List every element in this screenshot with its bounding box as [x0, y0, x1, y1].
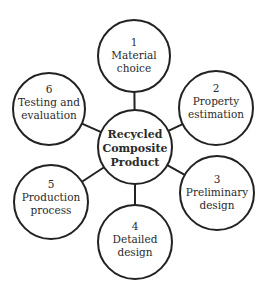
- connector-line: [168, 124, 182, 131]
- node-label-line-2: choice: [117, 62, 151, 74]
- connector-line: [82, 167, 104, 181]
- center-node: Recycled Composite Product: [98, 110, 172, 184]
- center-label-line-1: Recycled: [108, 128, 163, 141]
- node-label-line-2: design: [199, 199, 234, 211]
- connector-line: [82, 124, 101, 132]
- connector-line: [167, 165, 184, 175]
- node-1-material-choice: 1 Material choice: [98, 20, 170, 92]
- node-number: 5: [48, 178, 55, 190]
- node-label-line-2: process: [31, 204, 72, 216]
- center-label-line-3: Product: [111, 156, 161, 169]
- node-label-line-1: Property: [193, 95, 240, 107]
- node-label-line-1: Testing and: [18, 96, 80, 108]
- node-5-production-process: 5 Production process: [14, 165, 88, 239]
- node-3-preliminary-design: 3 Preliminary design: [180, 156, 254, 230]
- node-label-line-2: evaluation: [21, 109, 77, 121]
- node-number: 1: [131, 36, 138, 48]
- node-label-line-1: Preliminary: [186, 186, 248, 198]
- hub-and-spoke-diagram: Recycled Composite Product 1 Material ch…: [0, 0, 266, 289]
- node-number: 3: [214, 173, 221, 185]
- node-label-line-1: Detailed: [113, 233, 158, 245]
- node-label-line-1: Production: [22, 191, 81, 203]
- node-label-line-1: Material: [111, 49, 157, 61]
- node-number: 6: [46, 83, 53, 95]
- node-label-line-2: design: [117, 246, 152, 258]
- node-number: 2: [213, 82, 220, 94]
- node-number: 4: [132, 220, 139, 232]
- node-2-property-estimation: 2 Property estimation: [179, 71, 253, 145]
- center-label-line-2: Composite: [102, 142, 167, 155]
- node-label-line-2: estimation: [188, 108, 244, 120]
- node-6-testing-and-evaluation: 6 Testing and evaluation: [13, 73, 85, 145]
- node-4-detailed-design: 4 Detailed design: [98, 205, 172, 279]
